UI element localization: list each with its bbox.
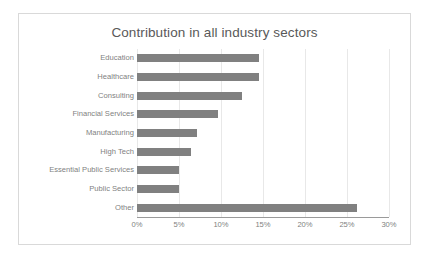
bar: [137, 54, 259, 62]
category-label: Consulting: [19, 92, 134, 100]
x-tick-label: 30%: [369, 221, 409, 229]
chart-title: Contribution in all industry sectors: [19, 25, 410, 40]
gridline: [347, 49, 348, 217]
category-label: Public Sector: [19, 185, 134, 193]
x-tick-label: 10%: [201, 221, 241, 229]
gridline: [263, 49, 264, 217]
category-label: Healthcare: [19, 73, 134, 81]
category-label: Other: [19, 204, 134, 212]
bar-series: [137, 49, 389, 217]
bar: [137, 204, 357, 212]
category-label: High Tech: [19, 148, 134, 156]
bar: [137, 110, 218, 118]
category-label: Essential Public Services: [19, 166, 134, 174]
category-axis: EducationHealthcareConsultingFinancial S…: [19, 49, 134, 217]
category-label: Education: [19, 54, 134, 62]
x-tick-label: 25%: [327, 221, 367, 229]
x-axis-tick-labels: 0%5%10%15%20%25%30%: [19, 221, 412, 235]
category-label: Manufacturing: [19, 129, 134, 137]
bar: [137, 73, 259, 81]
chart-frame: Contribution in all industry sectors Edu…: [18, 13, 411, 245]
x-tick-label: 0%: [117, 221, 157, 229]
plot-area: EducationHealthcareConsultingFinancial S…: [19, 49, 412, 217]
bar: [137, 129, 197, 137]
bar: [137, 92, 242, 100]
category-label: Financial Services: [19, 110, 134, 118]
x-tick-label: 5%: [159, 221, 199, 229]
bar: [137, 185, 179, 193]
x-tick-label: 15%: [243, 221, 283, 229]
gridline: [389, 49, 390, 217]
bar: [137, 166, 179, 174]
bar: [137, 148, 191, 156]
gridline: [305, 49, 306, 217]
x-axis-line: [137, 217, 389, 218]
x-tick-label: 20%: [285, 221, 325, 229]
